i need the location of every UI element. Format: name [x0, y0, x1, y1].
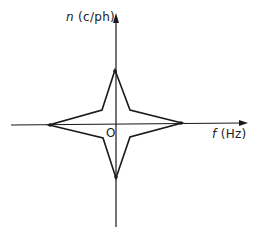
- x-axis-variable: f: [212, 127, 217, 141]
- vertex-top: [113, 69, 117, 73]
- y-axis-variable: n: [66, 10, 74, 24]
- x-axis-unit: (Hz): [221, 127, 247, 141]
- y-axis-unit: (c/ph): [78, 10, 115, 24]
- x-axis-label: f (Hz): [212, 127, 247, 141]
- x-axis: [11, 123, 242, 125]
- origin-label: O: [106, 126, 116, 140]
- vertex-bottom: [114, 175, 118, 179]
- y-axis-label: n (c/ph): [66, 10, 115, 24]
- x-axis-arrow-icon: [239, 120, 248, 126]
- vertex-left: [48, 123, 52, 127]
- vertex-right: [179, 121, 183, 125]
- spectrum-diagram: [0, 0, 264, 235]
